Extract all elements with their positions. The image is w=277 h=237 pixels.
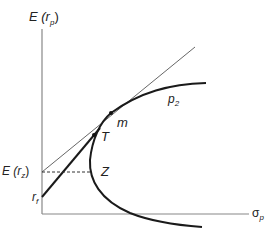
zero-beta-line — [42, 47, 195, 172]
label-T: T — [101, 130, 109, 143]
rf-label-sub: f — [36, 197, 38, 206]
diagram-svg — [0, 0, 277, 237]
erz-label-close: ) — [25, 164, 29, 178]
x-axis-label-sub: p — [259, 213, 263, 222]
point-T — [92, 133, 96, 137]
diagram-canvas: E (rp) σp E (rz) rf m T Z p2 — [0, 0, 277, 237]
capital-allocation-line — [42, 128, 100, 197]
label-Z: Z — [101, 165, 109, 178]
y-axis-label: E (rp) — [29, 10, 59, 27]
erz-label: E (rz) — [2, 165, 29, 180]
x-axis-label: σp — [252, 207, 264, 222]
curve-label-sub: 2 — [175, 99, 179, 108]
efficient-frontier-curve — [90, 83, 206, 227]
curve-label-text: p — [168, 92, 175, 106]
label-m: m — [117, 116, 128, 129]
rf-label: rf — [32, 191, 38, 206]
y-axis-label-close: ) — [54, 9, 58, 24]
point-m — [109, 111, 113, 115]
erz-label-text: E (r — [2, 164, 21, 178]
y-axis-label-text: E (r — [29, 9, 50, 24]
curve-label: p2 — [168, 93, 179, 108]
